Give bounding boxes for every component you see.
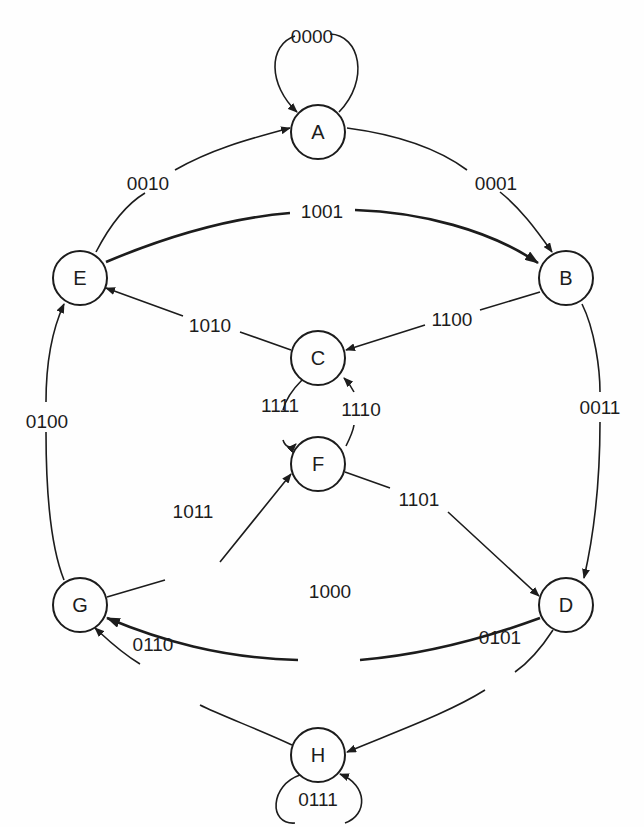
edge-0101 [347,630,553,752]
edge-label-1100: 1100 [432,309,473,330]
edge-label-1000: 1000 [309,581,351,602]
node-label-F: F [312,453,324,475]
edge-label-0111: 0111 [298,789,337,810]
node-label-G: G [72,594,88,616]
edge-label-1111: 1111 [261,395,299,416]
edge-label-0110: 0110 [133,634,174,655]
node-label-C: C [311,347,325,369]
edge-label-0011: 0011 [580,397,621,418]
edge-label-0000: 0000 [291,26,333,47]
edge-label-1010: 1010 [189,315,231,336]
edge-0100 [46,304,64,580]
edge-0010 [96,128,290,252]
edge-label-0101: 0101 [479,627,521,648]
edge-label-0100: 0100 [26,411,68,432]
diagram-canvas: 0000 0001 0010 0011 0100 0101 0110 0111 … [0,0,644,827]
edge-0001 [347,128,552,252]
node-label-D: D [559,594,573,616]
edge-label-0001: 0001 [475,173,517,194]
edge-label-1011: 1011 [173,501,214,522]
node-label-B: B [559,267,572,289]
node-label-A: A [311,121,325,143]
node-label-H: H [311,744,325,766]
edge-1101 [345,472,539,596]
edge-0011 [582,304,600,578]
edge-1011 [107,474,291,597]
state-diagram: 0000 0001 0010 0011 0100 0101 0110 0111 … [0,0,644,827]
edge-label-1101: 1101 [399,489,440,510]
edge-label-1110: 1110 [341,399,380,420]
node-label-E: E [73,267,86,289]
edge-label-1001: 1001 [301,201,343,222]
edge-label-0010: 0010 [127,173,169,194]
